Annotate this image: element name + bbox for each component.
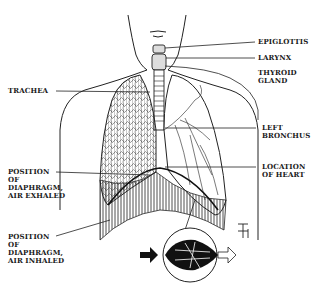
label-diaphragm-inhaled: POSITION OF DIAPHRAGM, AIR INHALED	[8, 233, 64, 265]
signature-icon	[238, 224, 248, 238]
label-location-of-heart: LOCATION OF HEART	[262, 163, 305, 179]
lung-diagram: EPIGLOTTIS LARYNX THYROID GLAND TRACHEA …	[0, 0, 319, 288]
label-trachea: TRACHEA	[8, 87, 48, 95]
label-left-bronchus: LEFT BRONCHUS	[262, 124, 310, 140]
label-larynx: LARYNX	[258, 54, 291, 62]
label-thyroid-gland: THYROID GLAND	[258, 69, 297, 85]
arrow-out-icon	[218, 247, 236, 263]
arrow-in-icon	[140, 247, 158, 263]
label-epiglottis: EPIGLOTTIS	[258, 38, 308, 46]
alveolus-inset	[163, 228, 218, 282]
label-diaphragm-exhaled: POSITION OF DIAPHRAGM, AIR EXHALED	[8, 168, 65, 200]
